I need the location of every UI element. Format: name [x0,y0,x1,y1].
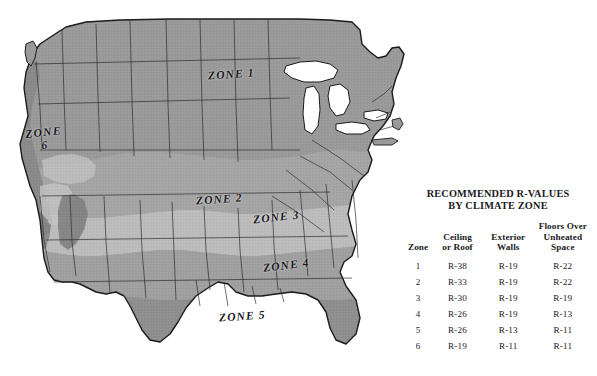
us-map-svg [0,0,420,376]
r-value-table-panel: RECOMMENDED R-VALUES BY CLIMATE ZONE Zon… [404,188,592,368]
table-header-row: Zone Ceiling or Roof Exterior Walls Floo… [404,221,592,257]
zone-cell-zone: 2 [404,274,432,290]
table-title: RECOMMENDED R-VALUES BY CLIMATE ZONE [404,188,592,211]
column-header-floors-line1: Floors Over [534,221,592,231]
column-header-zone: Zone [404,221,432,257]
zone-cell-zone: 5 [404,322,432,338]
column-header-floors-line2: Unheated [534,232,592,242]
zone-cell-floors: R-11 [534,322,592,338]
lake-ontario [364,110,388,121]
zone-cell-floors: R-19 [534,290,592,306]
zone-cell-floors: R-22 [534,257,592,273]
zone-cell-zone: 4 [404,306,432,322]
zone-cell-zone: 1 [404,257,432,273]
table-row: 1R-38R-19R-22 [404,257,592,273]
zone-cell-ceiling: R-38 [432,257,483,273]
zone-cell-ceiling: R-33 [432,274,483,290]
table-row: 5R-26R-13R-11 [404,322,592,338]
column-header-zone-line1: Zone [404,242,432,252]
zone-cell-floors: R-11 [534,338,592,354]
lake-michigan [303,86,320,134]
zone-cell-floors: R-22 [534,274,592,290]
zone-cell-walls: R-19 [483,290,534,306]
column-header-walls: Exterior Walls [483,221,534,257]
column-header-ceiling-line2: or Roof [432,242,483,252]
zone-cell-ceiling: R-30 [432,290,483,306]
zone-cell-ceiling: R-26 [432,306,483,322]
zone-cell-ceiling: R-19 [432,338,483,354]
table-title-line1: RECOMMENDED R-VALUES [404,188,592,200]
zone-cell-floors: R-13 [534,306,592,322]
rvalue-climate-zone-figure: ZONE 1 ZONE 6 ZONE 2 ZONE 3 ZONE 4 ZONE … [0,0,597,376]
column-header-walls-line1: Exterior [483,232,534,242]
lake-erie [336,122,370,134]
table-body: 1R-38R-19R-222R-33R-19R-223R-30R-19R-194… [404,257,592,354]
zone-cell-walls: R-13 [483,322,534,338]
zone-cell-zone: 6 [404,338,432,354]
column-header-ceiling: Ceiling or Roof [432,221,483,257]
column-header-walls-line2: Walls [483,242,534,252]
table-row: 2R-33R-19R-22 [404,274,592,290]
table-row: 4R-26R-19R-13 [404,306,592,322]
table-row: 6R-19R-11R-11 [404,338,592,354]
table-title-line2: BY CLIMATE ZONE [404,200,592,212]
column-header-ceiling-line1: Ceiling [432,232,483,242]
zone-cell-ceiling: R-26 [432,322,483,338]
column-header-floors-line3: Space [534,242,592,252]
table-row: 3R-30R-19R-19 [404,290,592,306]
climate-zone-map: ZONE 1 ZONE 6 ZONE 2 ZONE 3 ZONE 4 ZONE … [0,0,420,376]
table-head: Zone Ceiling or Roof Exterior Walls Floo… [404,221,592,257]
zone-cell-walls: R-19 [483,306,534,322]
zone-cell-walls: R-19 [483,257,534,273]
zone-cell-walls: R-19 [483,274,534,290]
column-header-floors: Floors Over Unheated Space [534,221,592,257]
zone-cell-zone: 3 [404,290,432,306]
r-value-table: Zone Ceiling or Roof Exterior Walls Floo… [404,221,592,354]
zone-cell-walls: R-11 [483,338,534,354]
